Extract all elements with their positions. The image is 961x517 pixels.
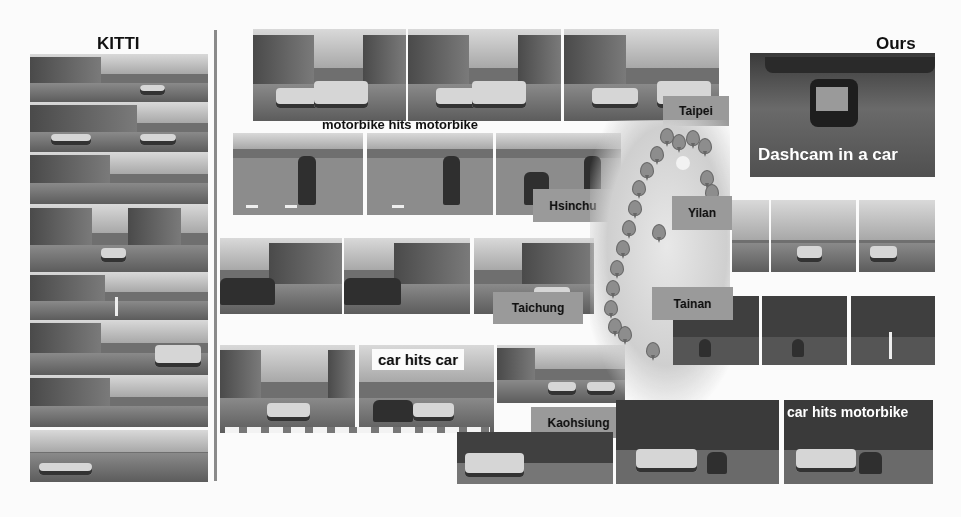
caption-motorbike-hits-motorbike: motorbike hits motorbike	[322, 117, 478, 132]
yilan-frame-3	[859, 200, 935, 272]
ours-heading: Ours	[876, 34, 916, 54]
taipei-frame-1	[253, 29, 406, 121]
map-pin-icon	[622, 220, 636, 236]
map-pin-icon	[606, 280, 620, 296]
taichung-frame-2	[344, 238, 470, 314]
map-pin-icon	[632, 180, 646, 196]
city-label-tainan: Tainan	[652, 287, 733, 320]
yilan-frame-1	[732, 200, 769, 272]
taipei-frame-2	[408, 29, 561, 121]
kitti-image-2	[30, 102, 208, 152]
kitti-image-1	[30, 54, 208, 102]
car-car-frame-1	[220, 345, 355, 433]
yilan-frame-2	[771, 200, 856, 272]
map-highlight-dot	[676, 156, 690, 170]
tainan-frame-3	[851, 296, 935, 365]
map-pin-icon	[610, 260, 624, 276]
map-pin-icon	[652, 224, 666, 240]
kitti-image-6	[30, 320, 208, 375]
map-pin-icon	[604, 300, 618, 316]
hsinchu-frame-2	[367, 133, 493, 215]
rearview-mirror	[765, 57, 935, 73]
kitti-heading: KITTI	[97, 34, 140, 54]
map-pin-icon	[672, 134, 686, 150]
map-pin-icon	[650, 146, 664, 162]
map-pin-icon	[646, 342, 660, 358]
car-motorbike-frame-2	[616, 400, 779, 484]
column-divider	[214, 30, 217, 481]
map-pin-icon	[640, 162, 654, 178]
dashcam-screen	[816, 87, 848, 111]
caption-dashcam: Dashcam in a car	[758, 145, 898, 165]
taichung-frame-1	[220, 238, 342, 314]
kitti-image-8	[30, 430, 208, 482]
city-label-yilan: Yilan	[672, 196, 732, 230]
crosswalk-stripes	[225, 427, 490, 433]
kitti-image-4	[30, 204, 208, 272]
city-label-taichung: Taichung	[493, 292, 583, 324]
kitti-image-3	[30, 152, 208, 204]
tainan-frame-2	[762, 296, 847, 365]
map-pin-icon	[698, 138, 712, 154]
hsinchu-frame-1	[233, 133, 363, 215]
kitti-image-5	[30, 272, 208, 320]
caption-car-hits-motorbike: car hits motorbike	[787, 404, 908, 420]
map-pin-icon	[616, 240, 630, 256]
map-pin-icon	[618, 326, 632, 342]
kitti-image-7	[30, 375, 208, 427]
map-pin-icon	[628, 200, 642, 216]
dashcam-photo: Dashcam in a car	[750, 53, 935, 177]
caption-car-hits-car: car hits car	[372, 349, 464, 370]
car-motorbike-frame-1	[457, 432, 613, 484]
